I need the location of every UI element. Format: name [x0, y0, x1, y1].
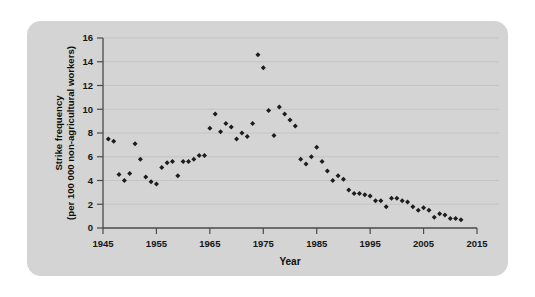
data-point: [373, 198, 378, 203]
data-point: [159, 165, 164, 170]
data-point: [346, 188, 351, 193]
data-point: [437, 211, 442, 216]
data-point: [426, 208, 431, 213]
data-point: [314, 145, 319, 150]
x-tick-label: 1955: [146, 238, 168, 249]
figure-panel: 0246810121416 19451955196519751985199520…: [27, 21, 508, 276]
scatter-plot: 0246810121416 19451955196519751985199520…: [27, 21, 508, 276]
y-tick-label: 8: [88, 127, 93, 138]
data-point: [453, 216, 458, 221]
data-point: [389, 196, 394, 201]
data-point: [165, 160, 170, 165]
y-tick-label: 2: [88, 199, 93, 210]
y-tick-label: 0: [88, 222, 93, 233]
data-point: [197, 153, 202, 158]
data-point: [207, 126, 212, 131]
data-point: [122, 178, 127, 183]
x-tick-label: 2015: [466, 238, 488, 249]
data-point: [245, 134, 250, 139]
y-tick-label: 4: [88, 175, 94, 186]
x-tick-label: 2005: [413, 238, 435, 249]
data-point: [410, 204, 415, 209]
data-point: [309, 154, 314, 159]
data-point: [282, 112, 287, 117]
data-point: [261, 65, 266, 70]
data-point: [288, 117, 293, 122]
data-point: [458, 217, 463, 222]
data-point: [352, 191, 357, 196]
data-point: [138, 157, 143, 162]
x-tick-label: 1995: [360, 238, 382, 249]
y-axis-ticks: 0246810121416: [82, 32, 103, 233]
data-point: [191, 157, 196, 162]
data-point: [223, 121, 228, 126]
data-point: [181, 159, 186, 164]
data-point: [175, 173, 180, 178]
data-point: [213, 112, 218, 117]
data-point: [202, 153, 207, 158]
data-point: [239, 131, 244, 136]
data-point: [341, 177, 346, 182]
data-point: [127, 171, 132, 176]
data-point: [186, 159, 191, 164]
y-tick-label: 10: [82, 104, 93, 115]
x-axis-title: Year: [279, 256, 300, 267]
gridlines: [103, 38, 499, 204]
data-point: [357, 191, 362, 196]
y-tick-label: 12: [82, 80, 93, 91]
data-point: [250, 121, 255, 126]
y-axis-title-line1: Strike frequency: [53, 95, 64, 171]
x-tick-label: 1965: [199, 238, 221, 249]
data-point: [154, 182, 159, 187]
data-point: [106, 136, 111, 141]
data-point: [368, 193, 373, 198]
data-point: [362, 192, 367, 197]
data-point: [336, 173, 341, 178]
data-point: [149, 179, 154, 184]
data-point: [293, 123, 298, 128]
data-point: [298, 157, 303, 162]
data-point: [255, 52, 260, 57]
data-point: [416, 208, 421, 213]
data-point: [330, 178, 335, 183]
data-point: [394, 196, 399, 201]
x-axis-ticks: 19451955196519751985199520052015: [92, 228, 488, 249]
data-point: [378, 198, 383, 203]
data-point: [320, 159, 325, 164]
data-point: [229, 125, 234, 130]
data-point: [277, 104, 282, 109]
data-point: [170, 159, 175, 164]
data-point: [271, 133, 276, 138]
data-point: [218, 129, 223, 134]
data-point: [405, 199, 410, 204]
data-point: [421, 205, 426, 210]
data-point: [442, 212, 447, 217]
data-point: [384, 204, 389, 209]
data-point: [400, 198, 405, 203]
data-point: [448, 216, 453, 221]
data-point: [304, 161, 309, 166]
chart-svg: 0246810121416 19451955196519751985199520…: [27, 21, 508, 276]
x-tick-label: 1985: [306, 238, 328, 249]
y-axis-title-line2: (per 100 000 non-agricultural workers): [65, 46, 76, 220]
data-point: [133, 141, 138, 146]
data-point: [266, 108, 271, 113]
data-point: [325, 169, 330, 174]
y-tick-label: 6: [88, 151, 93, 162]
data-point: [432, 215, 437, 220]
data-point: [111, 139, 116, 144]
y-tick-label: 14: [82, 56, 93, 67]
data-point: [143, 174, 148, 179]
data-points: [106, 52, 464, 222]
x-tick-label: 1945: [92, 238, 114, 249]
data-point: [234, 136, 239, 141]
data-point: [117, 172, 122, 177]
y-tick-label: 16: [82, 32, 93, 43]
x-tick-label: 1975: [253, 238, 275, 249]
